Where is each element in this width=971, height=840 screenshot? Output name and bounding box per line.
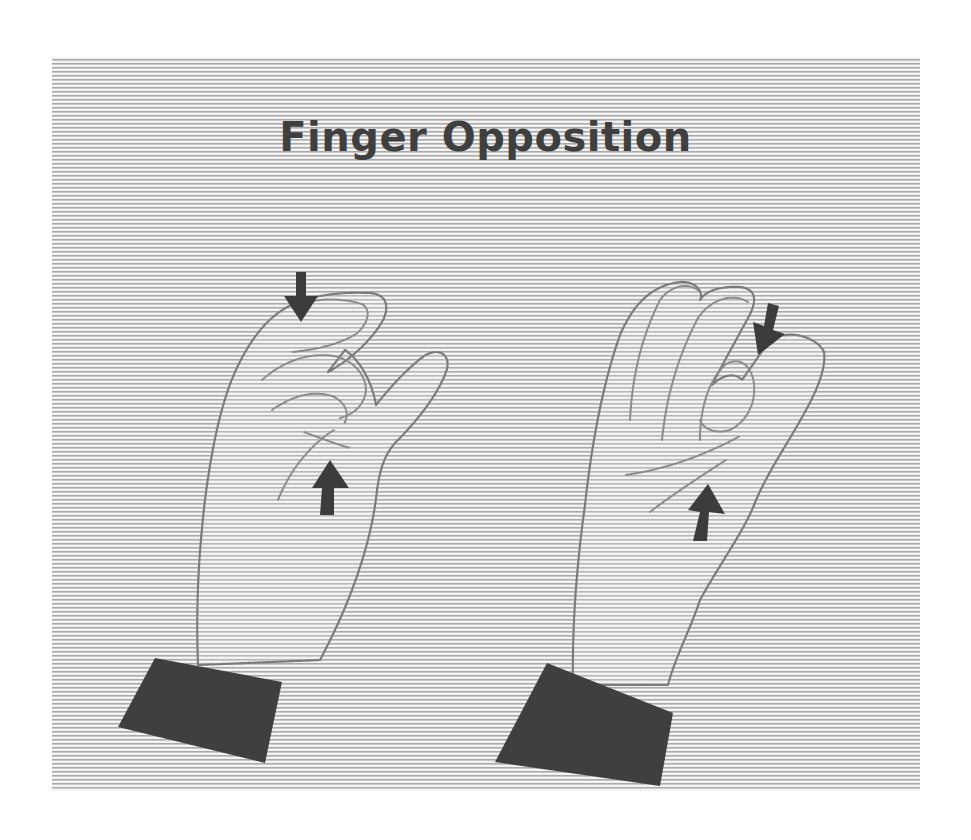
left-hand: [118, 272, 448, 763]
left-sleeve-cuff: [118, 658, 282, 763]
hands-illustration: [0, 0, 971, 840]
right-hand: [495, 282, 824, 786]
